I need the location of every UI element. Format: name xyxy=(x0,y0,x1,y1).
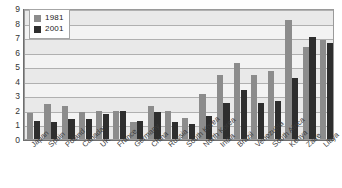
bar-2001-libya xyxy=(327,43,333,139)
y-tick-label: 5 xyxy=(0,63,20,72)
y-tick-label: 2 xyxy=(0,107,20,116)
y-tick-label: 3 xyxy=(0,92,20,101)
bar-group xyxy=(251,9,264,139)
bar-1981-brazil xyxy=(234,63,240,139)
bar-group xyxy=(79,9,92,139)
y-tick-label: 4 xyxy=(0,78,20,87)
y-tick-label: 7 xyxy=(0,34,20,43)
legend-swatch-2001 xyxy=(34,26,41,33)
bar-1981-libya xyxy=(320,40,326,139)
bar-group xyxy=(96,9,109,139)
bar-1981-france xyxy=(113,111,119,139)
bar-group xyxy=(130,9,143,139)
y-tick-label: 6 xyxy=(0,49,20,58)
y-tick-label: 9 xyxy=(0,5,20,14)
bar-1981-kenya xyxy=(285,20,291,139)
bar-group xyxy=(165,9,178,139)
bar-group xyxy=(182,9,195,139)
bar-1981-zaire xyxy=(303,47,309,139)
bar-chart: 0123456789 1981 2001 JapanSpainPolandCan… xyxy=(0,0,342,188)
bar-2001-zaire xyxy=(309,37,315,139)
legend-label-2001: 2001 xyxy=(45,25,64,33)
y-tick-label: 1 xyxy=(0,121,20,130)
y-tick-label: 8 xyxy=(0,20,20,29)
legend-label-1981: 1981 xyxy=(45,14,64,22)
bar-group xyxy=(320,9,333,139)
bar-1981-venezuela xyxy=(251,75,257,139)
legend-item-1981: 1981 xyxy=(34,13,64,23)
x-axis-labels: JapanSpainPolandCanadaUKFranceGermanyChi… xyxy=(0,141,342,188)
legend-swatch-1981 xyxy=(34,15,41,22)
legend-item-2001: 2001 xyxy=(34,24,64,34)
plot-area xyxy=(24,9,334,140)
legend: 1981 2001 xyxy=(29,9,70,39)
bar-series-container xyxy=(25,10,333,139)
bar-group xyxy=(148,9,161,139)
bar-group xyxy=(113,9,126,139)
bar-1981-japan xyxy=(27,113,33,139)
